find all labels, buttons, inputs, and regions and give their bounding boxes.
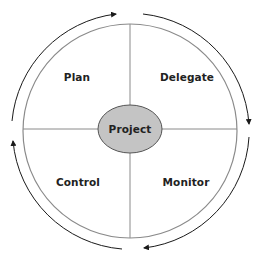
quadrant-label-control: Control	[56, 176, 100, 188]
quadrant-label-delegate: Delegate	[160, 71, 214, 83]
center-label-project: Project	[109, 123, 152, 135]
quadrant-label-plan: Plan	[64, 71, 90, 83]
quadrant-label-monitor: Monitor	[163, 176, 210, 188]
